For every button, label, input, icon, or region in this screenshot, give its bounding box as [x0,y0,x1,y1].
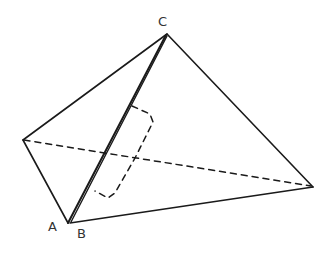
pyramid-figure [0,0,332,254]
vertex-label-c: C [158,15,167,28]
edge-A-to-C [68,35,166,223]
edge-C-to-right [167,34,313,187]
edge-left-to-C [23,34,167,140]
edge-left-to-A [23,140,68,223]
vertex-label-a: A [48,220,57,233]
hidden-edge-left-to-right [24,140,311,186]
edge-B-to-right [70,187,313,223]
vertex-label-b: B [77,227,86,240]
edge-B-to-C [71,36,167,222]
